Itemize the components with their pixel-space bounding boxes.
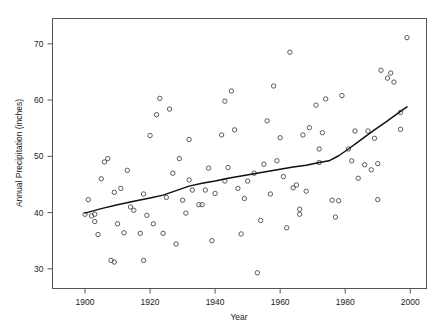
x-tick-label: 1900 (76, 297, 95, 307)
x-tick-label: 1920 (141, 297, 160, 307)
x-tick-label: 1960 (271, 297, 290, 307)
precipitation-scatter-chart: 3040506070 190019201940196019802000 Year… (0, 0, 446, 335)
x-axis-title: Year (230, 312, 247, 322)
y-tick-label: 40 (34, 208, 44, 218)
chart-background (0, 0, 446, 335)
y-tick-label: 50 (34, 151, 44, 161)
y-tick-label: 30 (34, 264, 44, 274)
x-tick-label: 2000 (401, 297, 420, 307)
y-tick-label: 60 (34, 95, 44, 105)
x-tick-label: 1980 (336, 297, 355, 307)
y-axis-title: Annual Precipitation (inches) (14, 99, 24, 207)
x-tick-label: 1940 (206, 297, 225, 307)
chart-canvas: 3040506070 190019201940196019802000 Year… (0, 0, 446, 335)
y-tick-label: 70 (34, 39, 44, 49)
